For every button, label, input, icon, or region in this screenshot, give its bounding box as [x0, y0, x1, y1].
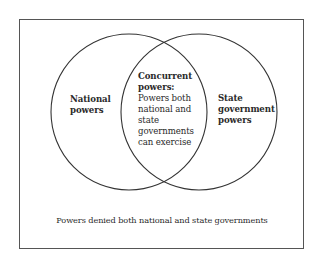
state-powers-label: State government powers	[218, 93, 275, 126]
national-powers-label: National powers	[70, 94, 111, 116]
concurrent-desc-line-4: governments	[138, 126, 194, 137]
state-powers-line-2: government	[218, 104, 275, 115]
national-powers-line-1: National	[70, 94, 111, 105]
powers-denied-label: Powers denied both national and state go…	[0, 215, 324, 226]
concurrent-desc-line-3: state	[138, 115, 194, 126]
concurrent-title-line-2: powers:	[138, 82, 194, 93]
concurrent-desc-line-2: national and	[138, 104, 194, 115]
concurrent-desc-line-1: Powers both	[138, 93, 194, 104]
national-powers-line-2: powers	[70, 105, 111, 116]
state-powers-line-3: powers	[218, 115, 275, 126]
concurrent-powers-label: Concurrent powers: Powers both national …	[138, 71, 194, 148]
concurrent-desc-line-5: can exercise	[138, 137, 194, 148]
concurrent-title-line-1: Concurrent	[138, 71, 194, 82]
state-powers-line-1: State	[218, 93, 275, 104]
